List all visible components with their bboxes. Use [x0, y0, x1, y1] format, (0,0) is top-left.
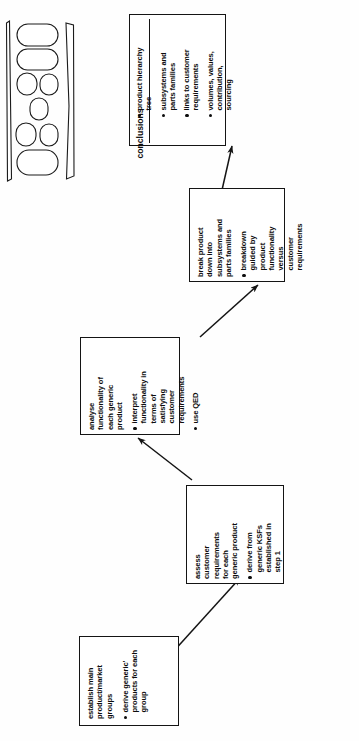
list-item: interpret functionality in terms of sati…	[130, 371, 186, 430]
list-item: use QED	[191, 371, 200, 430]
list-item: subsystems and parts families	[159, 48, 178, 117]
step-4-heading: break product down into subsystems and p…	[196, 219, 233, 277]
list-item: volumes, values, contribution, sourcing	[206, 48, 234, 117]
step-2-box[interactable]: assess customer requirements for each ge…	[186, 485, 284, 584]
step-2-heading: assess customer requirements for each ge…	[193, 523, 239, 579]
list-item: product hierarchy tree	[135, 48, 154, 117]
step-4-bullets: breakdown guided by product functionalit…	[239, 219, 309, 277]
step-1-bullets: derive generic' products for each group	[121, 650, 154, 719]
step-3-bullets: interpret functionality in terms of sati…	[130, 371, 205, 430]
diagram-page: conclusions product hierarchy tree subsy…	[0, 0, 359, 741]
step-2-bullets: derive from generic KSFs established in …	[245, 523, 287, 579]
step-1-box[interactable]: establish main product/market groups der…	[79, 636, 179, 726]
step-1-heading: establish main product/market groups	[86, 650, 114, 719]
step-3-box[interactable]: analyse functionality of each generic pr…	[80, 337, 180, 435]
list-item: breakdown guided by product functionalit…	[239, 219, 304, 277]
conclusions-bullets: product hierarchy tree subsystems and pa…	[135, 48, 239, 117]
step-3-heading: analyse functionality of each generic pr…	[87, 371, 124, 430]
list-item: derive generic' products for each group	[121, 650, 149, 719]
conclusions-box[interactable]: conclusions product hierarchy tree subsy…	[129, 14, 226, 146]
flowchart-stage: conclusions product hierarchy tree subsy…	[0, 0, 359, 741]
step-4-box[interactable]: break product down into subsystems and p…	[189, 188, 285, 282]
list-item: derive from generic KSFs established in …	[245, 523, 282, 579]
list-item: links to customer requirements	[182, 48, 201, 117]
